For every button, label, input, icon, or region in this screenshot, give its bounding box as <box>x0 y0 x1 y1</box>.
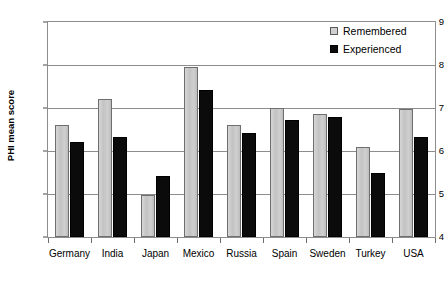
bar-group <box>220 22 263 237</box>
legend-swatch-experienced-icon <box>330 45 338 53</box>
legend: Remembered Experienced <box>330 26 407 54</box>
x-tick-mark <box>435 238 436 243</box>
bar-turkey-experienced <box>371 173 386 238</box>
bar-turkey-remembered <box>356 147 371 237</box>
bar-sweden-remembered <box>313 114 328 237</box>
x-tick-label-spain: Spain <box>272 248 298 259</box>
x-tick-mark <box>349 238 350 243</box>
bar-russia-experienced <box>242 133 257 237</box>
bar-usa-experienced <box>414 137 429 237</box>
y-tick-mark <box>43 65 47 66</box>
bar-india-remembered <box>98 99 113 237</box>
x-tick-mark <box>48 238 49 243</box>
bar-germany-experienced <box>70 142 85 237</box>
bar-japan-experienced <box>156 176 171 237</box>
y-tick-mark <box>43 108 47 109</box>
x-tick-label-turkey: Turkey <box>355 248 385 259</box>
bar-chart: PHI mean score 456789 GermanyIndiaJapanM… <box>0 0 444 286</box>
bar-russia-remembered <box>227 125 242 237</box>
bar-germany-remembered <box>55 125 70 237</box>
bar-group <box>263 22 306 237</box>
bar-group <box>91 22 134 237</box>
legend-item-experienced: Experienced <box>330 44 407 55</box>
x-tick-label-mexico: Mexico <box>183 248 215 259</box>
x-tick-mark <box>134 238 135 243</box>
y-tick-mark <box>43 151 47 152</box>
x-tick-mark <box>177 238 178 243</box>
bar-usa-remembered <box>399 109 414 237</box>
x-tick-label-sweden: Sweden <box>309 248 345 259</box>
y-axis-title: PHI mean score <box>2 0 20 250</box>
bar-mexico-experienced <box>199 90 214 237</box>
bar-japan-remembered <box>141 195 156 237</box>
bar-mexico-remembered <box>184 67 199 237</box>
bar-spain-remembered <box>270 108 285 237</box>
x-tick-mark <box>220 238 221 243</box>
bar-india-experienced <box>113 137 128 237</box>
bar-group <box>177 22 220 237</box>
bar-spain-experienced <box>285 120 300 237</box>
x-tick-mark <box>392 238 393 243</box>
x-tick-mark <box>91 238 92 243</box>
legend-item-remembered: Remembered <box>330 26 407 37</box>
legend-label-remembered: Remembered <box>343 26 407 37</box>
y-axis-title-text: PHI mean score <box>6 89 17 160</box>
x-tick-label-germany: Germany <box>49 248 90 259</box>
bar-group <box>134 22 177 237</box>
x-tick-mark <box>263 238 264 243</box>
x-tick-mark <box>306 238 307 243</box>
bar-group <box>48 22 91 237</box>
y-tick-mark <box>43 237 47 238</box>
x-tick-label-japan: Japan <box>142 248 169 259</box>
bar-sweden-experienced <box>328 117 343 237</box>
x-tick-label-usa: USA <box>403 248 424 259</box>
y-tick-mark <box>43 194 47 195</box>
legend-swatch-remembered-icon <box>330 27 338 35</box>
legend-label-experienced: Experienced <box>343 44 401 55</box>
x-tick-label-india: India <box>102 248 124 259</box>
x-tick-label-russia: Russia <box>226 248 257 259</box>
y-tick-mark <box>43 22 47 23</box>
